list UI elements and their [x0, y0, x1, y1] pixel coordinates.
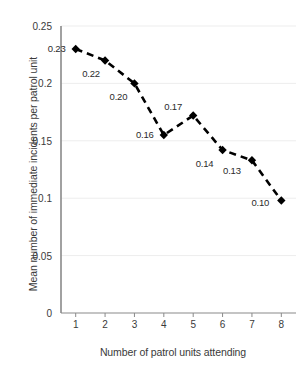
data-point-label: 0.13 [223, 165, 241, 176]
x-axis-tick-label: 1 [64, 319, 88, 330]
series-line [76, 49, 282, 201]
plot-area [0, 0, 306, 374]
x-axis-title: Number of patrol units attending [48, 346, 298, 358]
chart-container: Mean number of immediate incidents per p… [0, 0, 306, 374]
data-point-label: 0.16 [136, 129, 154, 140]
data-point-marker [277, 196, 285, 204]
data-point-marker [101, 56, 109, 64]
data-point-label: 0.20 [110, 91, 128, 102]
x-axis-tick-label: 8 [269, 319, 293, 330]
x-axis-tick-label: 4 [152, 319, 176, 330]
data-point-label: 0.23 [48, 42, 66, 53]
data-point-label: 0.14 [196, 157, 214, 168]
data-point-label: 0.22 [82, 68, 100, 79]
x-axis-tick-label: 2 [93, 319, 117, 330]
x-axis-tick-label: 3 [122, 319, 146, 330]
x-axis-tick-label: 5 [181, 319, 205, 330]
x-axis-tick-label: 6 [211, 319, 235, 330]
plot-svg [0, 0, 306, 374]
data-point-label: 0.17 [164, 100, 182, 111]
data-point-marker [71, 45, 79, 53]
gridlines [61, 26, 296, 256]
data-point-label: 0.10 [251, 197, 269, 208]
x-axis-tick-label: 7 [240, 319, 264, 330]
